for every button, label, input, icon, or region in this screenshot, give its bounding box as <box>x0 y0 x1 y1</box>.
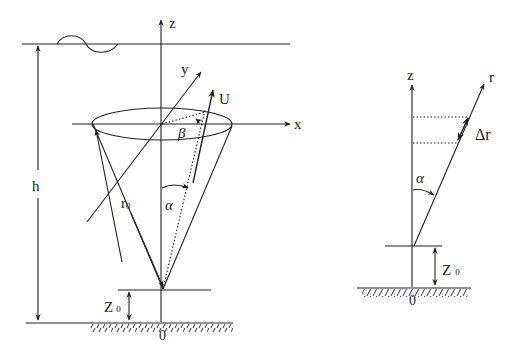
left-y-label: y <box>181 61 189 77</box>
beta-radial <box>162 112 205 124</box>
h-label: h <box>32 178 40 194</box>
left-origin-label: 0 <box>159 328 166 343</box>
r0-arrow-upper <box>96 130 122 262</box>
velocity-u-vector <box>193 90 213 183</box>
cone-coordinate-diagram: z x y U β α r0 h Z0 0 z r Δr α Z0 0 <box>0 0 525 353</box>
beta-label: β <box>177 125 186 141</box>
right-diagram <box>357 84 484 297</box>
r-axis <box>414 84 484 246</box>
right-origin-label: 0 <box>409 293 416 308</box>
delta-r-label: Δr <box>475 126 491 143</box>
right-z0-label: Z0 <box>442 262 460 278</box>
left-z0-label: Z0 <box>104 299 121 315</box>
left-diagram <box>22 20 290 332</box>
delta-r-arrow <box>458 118 468 140</box>
r-label: r <box>489 69 494 85</box>
right-z-label: z <box>407 67 414 83</box>
right-alpha-label: α <box>416 170 425 186</box>
cone-side-right <box>163 126 232 289</box>
r0-label: r0 <box>121 195 131 211</box>
left-x-label: x <box>294 116 302 132</box>
r0-arrow-lower <box>131 213 163 287</box>
velocity-label: U <box>219 91 230 107</box>
beta-arc <box>196 119 198 124</box>
right-alpha-arc <box>413 190 434 195</box>
left-alpha-label: α <box>165 197 174 213</box>
left-z-label: z <box>169 15 176 31</box>
alpha-arc <box>162 185 188 188</box>
